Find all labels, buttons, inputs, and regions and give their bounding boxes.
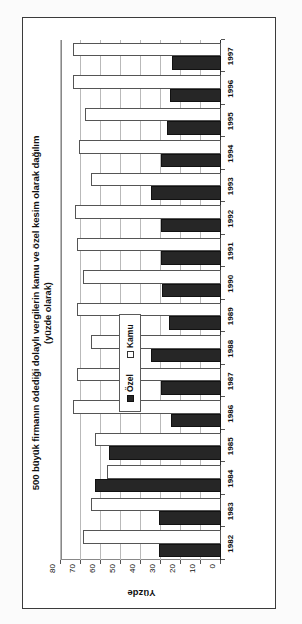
bar-group xyxy=(61,205,221,232)
bar-özel-1987 xyxy=(161,381,221,394)
y-tick-label: 10 xyxy=(188,564,197,586)
legend-label-kamu: Kamu xyxy=(125,324,135,348)
bar-group xyxy=(61,238,221,265)
x-tick-mark xyxy=(221,364,225,365)
x-tick-label-1993: 1993 xyxy=(226,177,235,195)
y-tick-mark xyxy=(80,560,81,564)
bar-özel-1996 xyxy=(170,89,221,102)
chart-legend: Özel Kamu xyxy=(119,314,141,412)
bar-group xyxy=(61,498,221,525)
x-tick-label-1990: 1990 xyxy=(226,275,235,293)
y-tick-mark xyxy=(140,560,141,564)
y-tick-mark xyxy=(200,560,201,564)
x-tick-label-1991: 1991 xyxy=(226,242,235,260)
x-tick-label-1987: 1987 xyxy=(226,372,235,390)
chart-frame: 500 büyük firmanın ödediği dolaylı vergi… xyxy=(22,17,276,609)
bar-özel-1994 xyxy=(161,154,221,167)
x-tick-mark xyxy=(221,299,225,300)
bar-group xyxy=(61,433,221,460)
bar-özel-1991 xyxy=(161,251,221,264)
bar-kamu-1985 xyxy=(95,433,221,446)
x-tick-mark xyxy=(221,39,225,40)
bar-group xyxy=(61,530,221,557)
x-tick-mark xyxy=(221,332,225,333)
bar-kamu-1994 xyxy=(79,140,221,153)
y-tick-mark xyxy=(120,560,121,564)
bar-group xyxy=(61,270,221,297)
x-tick-label-1989: 1989 xyxy=(226,307,235,325)
y-tick-label: 70 xyxy=(68,564,77,586)
y-tick-mark xyxy=(60,560,61,564)
legend-item-kamu: Kamu xyxy=(125,324,135,358)
y-tick-mark xyxy=(220,560,221,564)
bar-group xyxy=(61,43,221,70)
bar-kamu-1996 xyxy=(73,75,221,88)
bar-özel-1984 xyxy=(95,479,221,492)
x-tick-mark xyxy=(221,397,225,398)
y-tick-label: 30 xyxy=(148,564,157,586)
bar-kamu-1993 xyxy=(91,173,221,186)
x-tick-mark xyxy=(221,527,225,528)
x-tick-mark xyxy=(221,494,225,495)
empty-square-icon xyxy=(127,351,134,358)
y-tick-label: 40 xyxy=(128,564,137,586)
x-tick-label-1982: 1982 xyxy=(226,535,235,553)
y-tick-mark xyxy=(160,560,161,564)
bar-group xyxy=(61,173,221,200)
y-axis-title-label: Yüzde xyxy=(127,587,155,598)
bar-kamu-1988 xyxy=(91,335,221,348)
x-tick-mark xyxy=(221,137,225,138)
x-tick-mark xyxy=(221,234,225,235)
x-tick-mark xyxy=(221,104,225,105)
scanned-page: 500 büyük firmanın ödediği dolaylı vergi… xyxy=(0,0,302,624)
x-tick-mark xyxy=(221,429,225,430)
bar-özel-1997 xyxy=(172,56,221,69)
y-axis-title: Yüzde xyxy=(61,586,221,600)
bar-özel-1986 xyxy=(171,414,221,427)
filled-square-icon xyxy=(127,395,134,402)
x-tick-mark xyxy=(221,559,225,560)
bar-group xyxy=(61,75,221,102)
x-tick-mark xyxy=(221,169,225,170)
y-tick-mark xyxy=(100,560,101,564)
y-tick-label: 80 xyxy=(48,564,57,586)
bar-group xyxy=(61,108,221,135)
x-tick-label-1996: 1996 xyxy=(226,80,235,98)
bar-kamu-1989 xyxy=(77,303,221,316)
bar-özel-1992 xyxy=(161,219,221,232)
legend-item-ozel: Özel xyxy=(125,374,135,402)
legend-label-ozel: Özel xyxy=(125,374,135,392)
y-tick-label: 50 xyxy=(108,564,117,586)
bar-group xyxy=(61,335,221,362)
y-tick-label: 60 xyxy=(88,564,97,586)
bar-özel-1985 xyxy=(109,446,221,459)
bar-özel-1993 xyxy=(151,186,221,199)
bar-group xyxy=(61,303,221,330)
y-tick-label: 20 xyxy=(168,564,177,586)
x-tick-label-1988: 1988 xyxy=(226,340,235,358)
bar-özel-1989 xyxy=(169,316,221,329)
bar-kamu-1991 xyxy=(77,238,221,251)
y-tick-label: 0 xyxy=(208,564,217,586)
bar-group xyxy=(61,400,221,427)
bar-kamu-1984 xyxy=(107,465,221,478)
x-tick-label-1986: 1986 xyxy=(226,405,235,423)
bar-kamu-1986 xyxy=(73,400,221,413)
plot-area: 01020304050607080 1982198319841985198619… xyxy=(61,40,221,560)
bar-kamu-1982 xyxy=(83,530,221,543)
x-tick-label-1984: 1984 xyxy=(226,470,235,488)
bar-kamu-1992 xyxy=(75,205,221,218)
bar-özel-1990 xyxy=(162,284,221,297)
x-tick-label-1985: 1985 xyxy=(226,437,235,455)
bar-kamu-1987 xyxy=(77,368,221,381)
x-tick-mark xyxy=(221,72,225,73)
bar-group xyxy=(61,465,221,492)
bar-özel-1983 xyxy=(159,511,221,524)
bar-group xyxy=(61,140,221,167)
bar-group xyxy=(61,368,221,395)
x-tick-label-1983: 1983 xyxy=(226,502,235,520)
x-tick-label-1994: 1994 xyxy=(226,145,235,163)
x-tick-mark xyxy=(221,267,225,268)
y-tick-mark xyxy=(180,560,181,564)
x-tick-label-1995: 1995 xyxy=(226,112,235,130)
